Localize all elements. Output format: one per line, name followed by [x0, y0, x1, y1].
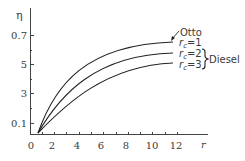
- x-tick-label: 6: [98, 140, 104, 151]
- x-tick-label: 0: [28, 140, 34, 151]
- svg-text:rc=3: rc=3: [179, 59, 202, 72]
- x-tick-label: 2: [49, 140, 55, 151]
- y-tick-label: 5: [21, 59, 27, 70]
- diesel-brace-icon: [202, 49, 208, 69]
- diesel-label: Diesel: [209, 54, 240, 65]
- y-tick-label: 0.1: [11, 118, 27, 129]
- x-ticks: [43, 132, 178, 134]
- diesel-rc3-curve: [38, 63, 173, 133]
- y-axis-label: η: [16, 9, 23, 22]
- x-tick-label: 4: [74, 140, 80, 151]
- x-axis-label: r: [201, 139, 207, 150]
- y-tick-label: 0.7: [11, 30, 27, 41]
- x-tick-label: 10: [146, 140, 159, 151]
- x-tick-label: 8: [123, 140, 129, 151]
- rc3-label: rc=3: [179, 59, 202, 72]
- efficiency-chart: 0.7 5 3 0.1 η 0 2 4 6 8 10 12 r Otto rc=…: [0, 0, 245, 161]
- otto-curve: [38, 42, 173, 133]
- x-tick-label: 12: [170, 140, 183, 151]
- y-tick-label: 3: [21, 88, 27, 99]
